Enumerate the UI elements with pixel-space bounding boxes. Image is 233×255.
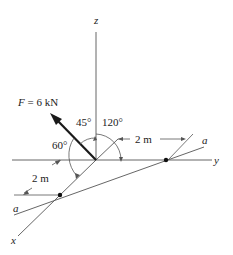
- dimension-extension-right: [168, 134, 193, 160]
- force-label: F = 6 kN: [17, 96, 58, 108]
- point-on-y-axis: [164, 158, 168, 162]
- x-axis-extension: [96, 139, 118, 160]
- point-on-x-axis: [58, 193, 62, 197]
- x-axis-label: x: [10, 234, 16, 246]
- dimension-arrow-left-icon: [118, 137, 123, 141]
- angle-label-z: 45°: [76, 116, 91, 128]
- x-axis: [18, 160, 96, 236]
- dimension-label-y: 2 m: [135, 133, 152, 145]
- line-label-a-right: a: [202, 134, 208, 146]
- dimension-arrow-up-icon: [55, 160, 61, 165]
- dimension-label-x: 2 m: [32, 172, 49, 184]
- dimension-arrow-right-icon: [181, 137, 186, 141]
- y-axis-label: y: [213, 154, 219, 166]
- force-diagram: z y x F = 6 kN 45° 120° 60° 2 m 2 m a a: [0, 0, 233, 255]
- angle-arc-x: [69, 138, 77, 176]
- z-axis-label: z: [93, 14, 99, 26]
- arc-arrow-y-icon: [119, 157, 123, 162]
- angle-label-x: 60°: [52, 139, 67, 151]
- line-label-a-left: a: [13, 202, 19, 214]
- angle-label-y: 120°: [102, 116, 123, 128]
- angle-arc-z: [80, 138, 96, 144]
